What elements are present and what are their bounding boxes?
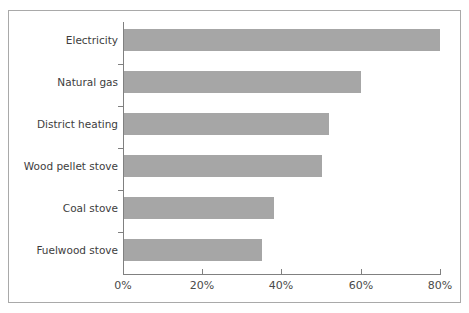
category-label-district-heating: District heating [12, 118, 118, 130]
bar-electricity[interactable] [124, 29, 440, 51]
x-tick-label-2: 40% [256, 279, 306, 292]
category-label-coal-stove: Coal stove [12, 202, 118, 214]
y-axis-line [123, 22, 124, 274]
y-tick-mark-1 [118, 106, 123, 107]
x-tick-label-4: 80% [415, 279, 465, 292]
bar-wood-pellet-stove[interactable] [124, 155, 322, 177]
x-tick-label-1: 20% [177, 279, 227, 292]
x-tick-label-3: 60% [336, 279, 386, 292]
x-axis-line [123, 274, 441, 275]
y-tick-mark-4 [118, 232, 123, 233]
x-tick-label-0: 0% [98, 279, 148, 292]
plot-area: 0% 20% 40% 60% 80% Electricity Natural g… [0, 0, 469, 313]
x-tick-mark-1 [202, 269, 203, 275]
category-label-wood-pellet-stove: Wood pellet stove [12, 160, 118, 172]
x-tick-mark-4 [440, 269, 441, 275]
bar-fuelwood-stove[interactable] [124, 239, 262, 261]
x-tick-mark-3 [361, 269, 362, 275]
x-tick-mark-2 [281, 269, 282, 275]
y-tick-mark-0 [118, 64, 123, 65]
chart-figure: 0% 20% 40% 60% 80% Electricity Natural g… [0, 0, 469, 313]
x-tick-mark-0 [123, 269, 124, 275]
y-tick-mark-3 [118, 190, 123, 191]
category-label-electricity: Electricity [12, 34, 118, 46]
bar-coal-stove[interactable] [124, 197, 274, 219]
category-label-natural-gas: Natural gas [12, 76, 118, 88]
category-label-fuelwood-stove: Fuelwood stove [12, 244, 118, 256]
bar-natural-gas[interactable] [124, 71, 361, 93]
y-tick-mark-2 [118, 148, 123, 149]
bar-district-heating[interactable] [124, 113, 329, 135]
